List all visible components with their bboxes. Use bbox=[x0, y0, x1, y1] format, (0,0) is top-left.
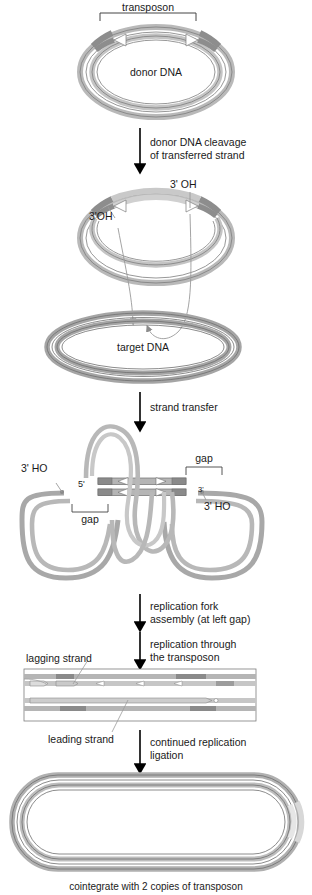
intermediate-left-loop-inner bbox=[32, 501, 110, 570]
gap-right-label: gap bbox=[195, 452, 213, 465]
cointegrate-outer-strand bbox=[12, 775, 300, 869]
step-replication-line2: the transposon bbox=[150, 651, 219, 664]
leading-strand-arrow bbox=[30, 698, 212, 703]
fork-strand-4 bbox=[24, 706, 256, 711]
fork-tn-block-2 bbox=[176, 674, 206, 679]
gap-bracket-left bbox=[72, 504, 108, 512]
oh-right-label: 3' OH bbox=[170, 178, 197, 191]
step-fork-line2: assembly (at left gap) bbox=[150, 613, 250, 626]
stage-donor-dna bbox=[80, 13, 232, 117]
step-cleavage-line2: of transferred strand bbox=[150, 149, 245, 162]
oh-left-label: 3'OH bbox=[89, 210, 113, 223]
leading-strand-label: leading strand bbox=[48, 733, 114, 746]
gap-bracket-right bbox=[186, 467, 222, 475]
ir-block-tr bbox=[172, 478, 186, 485]
five-prime-label: 5' bbox=[78, 478, 85, 491]
ir-block-bl bbox=[98, 489, 112, 496]
lagging-strand-label: lagging strand bbox=[26, 652, 92, 665]
cleaved-inner-strand bbox=[92, 218, 220, 265]
figure-caption: cointegrate with 2 copies of transposon bbox=[69, 881, 242, 892]
fork-tn-block-3 bbox=[216, 681, 234, 686]
ho-left-label: 3' HO bbox=[21, 462, 48, 475]
gap-left-label: gap bbox=[81, 513, 99, 526]
fork-tn-block-5 bbox=[190, 706, 216, 711]
transposon-label: transposon bbox=[122, 1, 174, 14]
step-strand-transfer-line1: strand transfer bbox=[150, 401, 218, 414]
transposon-bracket bbox=[100, 13, 196, 21]
step-cleavage-line1: donor DNA cleavage bbox=[150, 136, 246, 149]
ir-block-tl bbox=[98, 478, 112, 485]
transposition-diagram: transposon donor DNA donor DNA cleavage … bbox=[0, 0, 312, 895]
cointegrate-inner-strand bbox=[22, 785, 290, 859]
leading-strand-end bbox=[214, 699, 218, 703]
stage-cointegrate bbox=[12, 775, 302, 869]
target-dna-label: target DNA bbox=[117, 341, 169, 354]
step-replication-line1: replication through bbox=[150, 638, 236, 651]
fork-tn-block-1 bbox=[56, 674, 74, 679]
step-continued-line1: continued replication bbox=[150, 736, 246, 749]
cleaved-inner-top bbox=[114, 197, 198, 206]
three-prime-label: 3' bbox=[198, 484, 204, 497]
step-continued-line2: ligation bbox=[150, 749, 183, 762]
fork-tn-block-4 bbox=[60, 706, 86, 711]
stage-replication-fork bbox=[24, 660, 256, 732]
step-fork-line1: replication fork bbox=[150, 600, 218, 613]
donor-dna-label: donor DNA bbox=[130, 66, 182, 79]
ho-right-label: 3' HO bbox=[204, 500, 231, 513]
